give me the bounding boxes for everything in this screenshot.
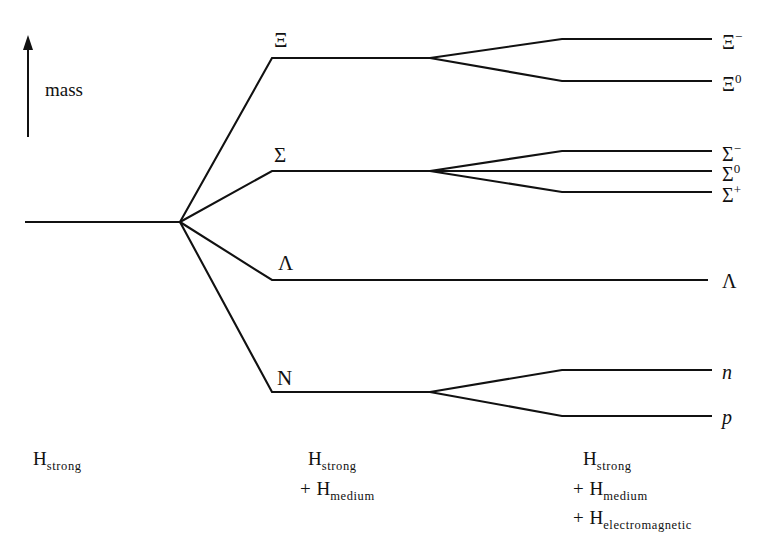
state-label-xi-minus: Ξ−	[722, 30, 742, 52]
branch-sigma-sublevel-0	[430, 151, 712, 171]
mass-axis-arrowhead	[23, 35, 33, 50]
plus-sign: +	[300, 478, 315, 499]
hamiltonian-term-medium: + Hmedium	[300, 476, 375, 506]
state-label-sigma-plus: Σ+	[722, 183, 741, 205]
state-charge-superscript: 0	[735, 71, 742, 86]
hamiltonian-subscript: electromagnetic	[603, 518, 692, 532]
hamiltonian-subscript: strong	[47, 459, 82, 473]
multiplet-label-sigma: Σ	[274, 145, 286, 166]
state-label-xi-zero: Ξ0	[722, 72, 741, 94]
hamiltonian-subscript: strong	[322, 459, 357, 473]
multiplet-label-xi: Ξ	[274, 30, 288, 51]
hamiltonian-subscript: strong	[597, 459, 632, 473]
state-label-proton: p	[722, 407, 732, 427]
state-symbol: Σ	[722, 184, 734, 206]
hamiltonian-subscript: medium	[603, 488, 648, 502]
state-symbol: Ξ	[722, 31, 735, 53]
hamiltonian-symbol: H	[583, 448, 597, 469]
branch-sigma-sublevel-2	[430, 171, 712, 192]
hamiltonian-term-medium: + Hmedium	[573, 476, 692, 506]
hamiltonian-term-strong: Hstrong	[33, 446, 82, 476]
hamiltonian-term-electromagnetic: + Helectromagnetic	[573, 505, 692, 535]
state-symbol: p	[722, 406, 732, 428]
state-charge-superscript: 0	[734, 161, 741, 176]
hamiltonian-symbol: H	[589, 478, 603, 499]
hamiltonian-term-strong: Hstrong	[300, 446, 375, 476]
multiplet-label-lambda: Λ	[278, 253, 293, 274]
hamiltonian-subscript: medium	[330, 488, 375, 502]
hamiltonian-symbol: H	[308, 448, 322, 469]
level-lines-group	[25, 39, 712, 416]
branch-xi-sublevel-1	[430, 58, 712, 81]
branch-xi-stem	[180, 58, 430, 222]
multiplet-label-nucleon: N	[277, 368, 292, 389]
state-symbol: Σ	[722, 163, 734, 185]
hamiltonian-caption-column-strong-medium: Hstrong+ Hmedium	[300, 446, 375, 505]
mass-axis	[23, 35, 33, 137]
branch-xi-sublevel-0	[430, 39, 712, 58]
branch-lambda-stem	[180, 222, 430, 280]
mass-level-diagram: mass ΞΣΛN Ξ−Ξ0Σ−Σ0Σ+Λnp HstrongHstrong+ …	[0, 0, 760, 537]
state-charge-superscript: −	[735, 29, 742, 44]
hamiltonian-symbol: H	[589, 507, 603, 528]
branch-nucleon-sublevel-1	[430, 392, 712, 416]
branch-nucleon-sublevel-0	[430, 370, 712, 392]
branch-nucleon-stem	[180, 222, 430, 392]
plus-sign: +	[573, 507, 588, 528]
state-charge-superscript: +	[734, 182, 741, 197]
state-label-neutron: n	[722, 362, 732, 382]
hamiltonian-caption-column-strong: Hstrong	[33, 446, 82, 476]
state-label-sigma-zero: Σ0	[722, 162, 740, 184]
branch-sigma-stem	[180, 171, 430, 222]
state-symbol: Ξ	[722, 73, 735, 95]
hamiltonian-symbol: H	[33, 448, 47, 469]
state-label-lambda-right: Λ	[722, 271, 737, 291]
state-charge-superscript: −	[734, 141, 741, 156]
hamiltonian-term-strong: Hstrong	[573, 446, 692, 476]
hamiltonian-symbol: H	[316, 478, 330, 499]
mass-axis-label: mass	[45, 80, 83, 99]
state-symbol: n	[722, 361, 732, 383]
hamiltonian-caption-column-strong-medium-em: Hstrong+ Hmedium+ Helectromagnetic	[573, 446, 692, 535]
state-symbol: Λ	[722, 270, 737, 292]
plus-sign: +	[573, 478, 588, 499]
